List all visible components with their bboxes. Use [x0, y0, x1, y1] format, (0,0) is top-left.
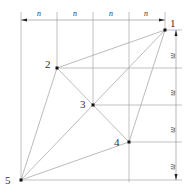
arrow-left-icon [21, 19, 27, 22]
dimension-label-m-1: m [169, 53, 178, 59]
point-label-2: 2 [45, 58, 51, 70]
construction-diagram: 1 2 3 4 5 n n n n m m m m [0, 0, 192, 196]
point-label-4: 4 [114, 136, 120, 148]
arrow-right-icon [159, 19, 165, 22]
dimension-label-n-2: n [73, 9, 77, 18]
point-label-5: 5 [5, 174, 11, 186]
edge-4-1 [129, 30, 165, 142]
point-label-1: 1 [170, 17, 176, 29]
point-4 [128, 141, 131, 144]
edge-2-5 [21, 68, 57, 180]
dimension-label-m-2: m [169, 90, 178, 96]
point-label-3: 3 [80, 98, 86, 110]
point-5 [20, 179, 23, 182]
dimension-label-n-4: n [144, 9, 148, 18]
dimension-label-n-3: n [109, 9, 113, 18]
arrow-down-icon [175, 174, 178, 180]
point-3 [92, 104, 95, 107]
point-1 [164, 29, 167, 32]
dimension-label-m-4: m [169, 164, 178, 170]
point-2 [56, 67, 59, 70]
edge-5-4 [21, 142, 129, 180]
dimension-label-n-1: n [37, 9, 41, 18]
dimension-label-m-3: m [169, 127, 178, 133]
edge-1-2 [57, 30, 165, 68]
arrow-up-icon [175, 30, 178, 36]
